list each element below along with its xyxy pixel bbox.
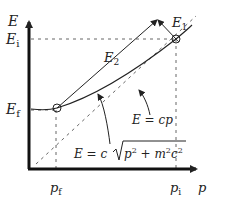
curve-equation: E = c p2 + m2c2 [73, 141, 186, 161]
svg-text:E = c: E = c [73, 147, 107, 161]
e1-label: E1 [171, 15, 187, 32]
ef-label: Ef [5, 101, 21, 119]
energy-momentum-diagram: E p Ei Ef pf pi E1 E2 E = cp E = c p2 + … [0, 0, 226, 216]
pi-label: pi [170, 180, 181, 197]
svg-text:p2 + m2c2: p2 + m2c2 [124, 146, 183, 161]
ei-label: Ei [5, 31, 19, 49]
pf-label: pf [50, 180, 62, 197]
asymptote-equation: E = cp [131, 113, 173, 127]
energy-curve [31, 25, 192, 110]
guide-lines [31, 16, 196, 168]
y-axis-label: E [7, 13, 18, 29]
asymptote-pointer-arrow [139, 90, 150, 115]
x-axis-label: p [198, 180, 207, 195]
e2-label: E2 [103, 50, 119, 67]
